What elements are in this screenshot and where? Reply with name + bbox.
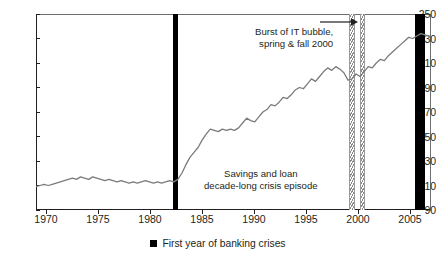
savings-loan-annotation: Savings and loan decade-long crisis epis… [204,168,318,191]
chart-container: 250 230 210 190 170 150 130 110 90 1 [0,0,436,261]
x-tick-label: 1975 [76,214,120,225]
legend-label: First year of banking crises [162,238,285,249]
it-bubble-annotation: Burst of IT bubble, spring & fall 2000 [255,26,333,49]
savings-loan-annotation-line2: decade-long crisis episode [204,180,318,192]
x-tick-label: 1990 [232,214,276,225]
x-tick-label: 2005 [388,214,432,225]
x-tick-label: 1985 [180,214,224,225]
legend-swatch-icon [150,240,157,247]
legend: First year of banking crises [0,238,436,249]
x-tick-label: 1980 [128,214,172,225]
cropped-title [36,0,376,6]
x-tick-label: 2000 [336,214,380,225]
it-bubble-annotation-line1: Burst of IT bubble, [255,26,333,38]
savings-loan-annotation-line1: Savings and loan [204,168,318,180]
x-tick-label: 1995 [284,214,328,225]
it-bubble-annotation-line2: spring & fall 2000 [255,38,333,50]
x-tick-label: 1970 [24,214,68,225]
